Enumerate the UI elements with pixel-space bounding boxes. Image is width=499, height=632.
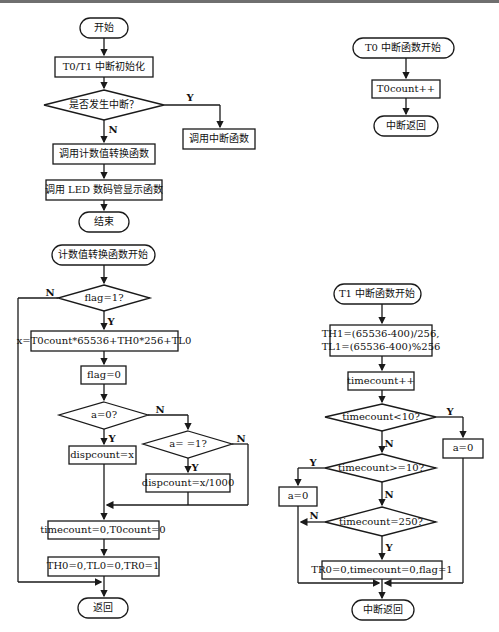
convert-a0-no-label: N [155, 404, 164, 415]
convert-a1-no-label: N [236, 433, 245, 444]
t1-250-no-label: N [309, 510, 318, 521]
convert-disp-x-box: dispcount=x [70, 449, 134, 461]
t1-ge10-decision: timecount>=10? [338, 462, 424, 474]
t1-lt10-yes-label: Y [446, 406, 453, 417]
main-call-convert-box: 调用计数值转换函数 [59, 148, 149, 160]
convert-a1-decision: a= =1? [169, 438, 207, 450]
main-start-terminal: 开始 [94, 22, 114, 34]
convert-disp-x1000-box: dispcount=x/1000 [142, 477, 235, 489]
t1-lt10-no-label: N [384, 438, 393, 449]
main-no-label: N [108, 124, 117, 135]
t1-start-terminal: T1 中断函数开始 [339, 288, 415, 300]
convert-a0-decision: a=0? [91, 409, 117, 421]
convert-a0-yes-label: Y [108, 433, 115, 444]
main-yes-label: Y [186, 92, 193, 103]
convert-flag-no-label: N [45, 287, 54, 298]
convert-flag-decision: flag=1? [84, 292, 123, 304]
convert-flag-yes-label: Y [107, 316, 114, 327]
main-init-box: T0/T1 中断初始化 [63, 61, 146, 73]
main-call-interrupt-box: 调用中断函数 [189, 133, 249, 145]
t1-a0-left-box: a=0 [288, 490, 309, 502]
t1-250-decision: timecount=250? [339, 516, 423, 528]
t1-final-box: TR0=0,timecount=0,flag=1 [311, 564, 452, 576]
convert-a1-yes-label: Y [191, 462, 198, 473]
convert-reset-timer-box: TH0=0,TL0=0,TR0=1 [47, 560, 160, 572]
t1-reload-box: TH1=(65536-400)/256, TL1=(65536-400)%256 [322, 327, 441, 353]
convert-reset-counts-box: timecount=0,T0count=0 [40, 524, 165, 536]
t1-a0-right-box: a=0 [453, 442, 474, 454]
t1-increment-box: timecount++ [347, 375, 415, 387]
t0-end-terminal: 中断返回 [386, 120, 426, 132]
t1-250-yes-label: Y [385, 542, 392, 553]
main-interrupt-decision: 是否发生中断？ [69, 99, 139, 111]
t0-start-terminal: T0 中断函数开始 [365, 42, 441, 54]
convert-reset-flag-box: flag=0 [87, 369, 121, 381]
t1-ge10-yes-label: Y [309, 457, 316, 468]
t0-increment-box: T0count++ [377, 83, 435, 95]
t1-end-terminal: 中断返回 [363, 604, 403, 616]
main-end-terminal: 结束 [94, 216, 114, 228]
convert-calc-box: x=T0count*65536+TH0*256+TL0 [17, 335, 192, 347]
convert-start-terminal: 计数值转换函数开始 [58, 249, 148, 261]
main-call-display-box: 调用 LED 数码管显示函数 [45, 184, 163, 196]
t1-lt10-decision: timecount<10? [342, 411, 420, 423]
convert-end-terminal: 返回 [93, 602, 113, 614]
t1-ge10-no-label: N [384, 489, 393, 500]
